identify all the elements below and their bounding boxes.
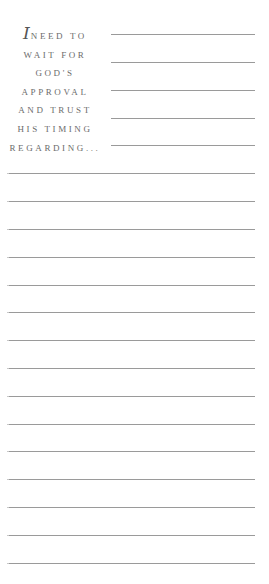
writing-line[interactable] <box>8 312 255 313</box>
prompt-line-3: GOD'S <box>0 64 110 83</box>
journal-prompt: INEED TO WAIT FOR GOD'S APPROVAL AND TRU… <box>0 24 110 157</box>
prompt-line-7: REGARDING... <box>0 139 110 158</box>
writing-line[interactable] <box>8 340 255 341</box>
prompt-line-6: HIS TIMING <box>0 120 110 139</box>
writing-line[interactable] <box>8 535 255 536</box>
writing-line[interactable] <box>8 173 255 174</box>
writing-line[interactable] <box>8 285 255 286</box>
writing-line-short[interactable] <box>111 90 255 91</box>
prompt-line-1: INEED TO <box>0 24 110 46</box>
prompt-line-4: APPROVAL <box>0 83 110 102</box>
writing-line-short[interactable] <box>111 62 255 63</box>
writing-line-short[interactable] <box>111 34 255 35</box>
writing-line[interactable] <box>8 396 255 397</box>
writing-line-short[interactable] <box>111 145 255 146</box>
writing-line[interactable] <box>8 201 255 202</box>
writing-line[interactable] <box>8 479 255 480</box>
writing-line[interactable] <box>8 229 255 230</box>
drop-cap: I <box>23 23 30 43</box>
writing-line[interactable] <box>8 507 255 508</box>
writing-line-short[interactable] <box>111 118 255 119</box>
writing-line[interactable] <box>8 257 255 258</box>
writing-line[interactable] <box>8 424 255 425</box>
writing-line[interactable] <box>8 368 255 369</box>
writing-line[interactable] <box>8 451 255 452</box>
prompt-line-2: WAIT FOR <box>0 46 110 65</box>
writing-line[interactable] <box>8 563 255 564</box>
prompt-line-5: AND TRUST <box>0 101 110 120</box>
